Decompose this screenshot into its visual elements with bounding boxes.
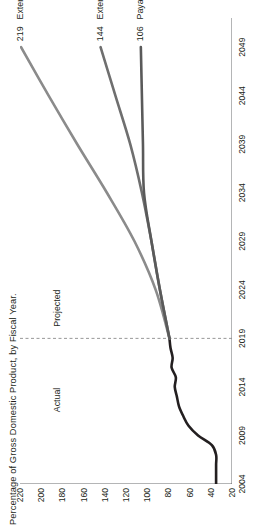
y-tick-120: 120 [121,488,131,502]
y-tick-40: 40 [206,488,216,498]
y-tick-220: 220 [15,488,25,502]
x-tick-2049: 2049 [237,38,247,57]
y-tick-180: 180 [57,488,67,502]
chart-figure: Percentage of Gross Domestic Product, by… [0,0,279,531]
series-label-payable-benefits-scenario: 106Payable benefits scenario [135,0,146,41]
series-name: Extended alternative fiscal scenario [15,0,26,19]
series-end-value: 219 [15,26,26,41]
chart-axes [20,18,232,484]
x-tick-2014: 2014 [237,377,247,396]
chart-series [21,47,216,484]
x-tick-2039: 2039 [237,135,247,154]
y-tick-80: 80 [163,488,173,498]
x-tick-2009: 2009 [237,426,247,445]
period-label-actual: Actual [52,388,62,412]
series-end-value: 144 [95,26,106,41]
x-tick-2034: 2034 [237,183,247,202]
series-end-value: 106 [135,26,146,41]
plot-area: 20406080100120140160180200220 2004200920… [20,18,232,484]
period-label-projected: Projected [52,290,62,327]
y-tick-140: 140 [100,488,110,502]
x-tick-2019: 2019 [237,329,247,348]
x-tick-2044: 2044 [237,86,247,105]
chart-stage: Percentage of Gross Domestic Product, by… [0,0,279,531]
chart-svg [20,18,232,484]
x-tick-2024: 2024 [237,280,247,299]
y-tick-60: 60 [185,488,195,498]
y-tick-160: 160 [79,488,89,502]
series-name: Extended baseline [95,0,106,19]
y-tick-100: 100 [142,488,152,502]
x-tick-2029: 2029 [237,232,247,251]
series-name: Payable benefits scenario [135,0,146,19]
y-tick-200: 200 [36,488,46,502]
series-label-extended-alternative-fiscal-scenario: 219Extended alternative fiscal scenario [15,0,26,41]
x-tick-2004: 2004 [237,474,247,493]
y-tick-20: 20 [227,488,237,498]
series-label-extended-baseline: 144Extended baseline [95,0,106,41]
